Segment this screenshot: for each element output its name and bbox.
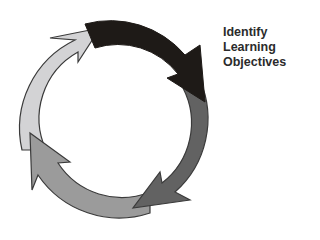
cycle-arrow-light-gray xyxy=(20,28,100,150)
label-line-3: Objectives xyxy=(223,55,286,70)
cycle-arrow-dark xyxy=(85,21,205,102)
label-line-2: Learning xyxy=(223,40,286,55)
cycle-arrow-medium-gray xyxy=(30,133,150,218)
label-line-1: Identify xyxy=(223,25,286,40)
cycle-arrow-dark-gray xyxy=(133,80,208,208)
cycle-step-label: Identify Learning Objectives xyxy=(223,25,286,70)
